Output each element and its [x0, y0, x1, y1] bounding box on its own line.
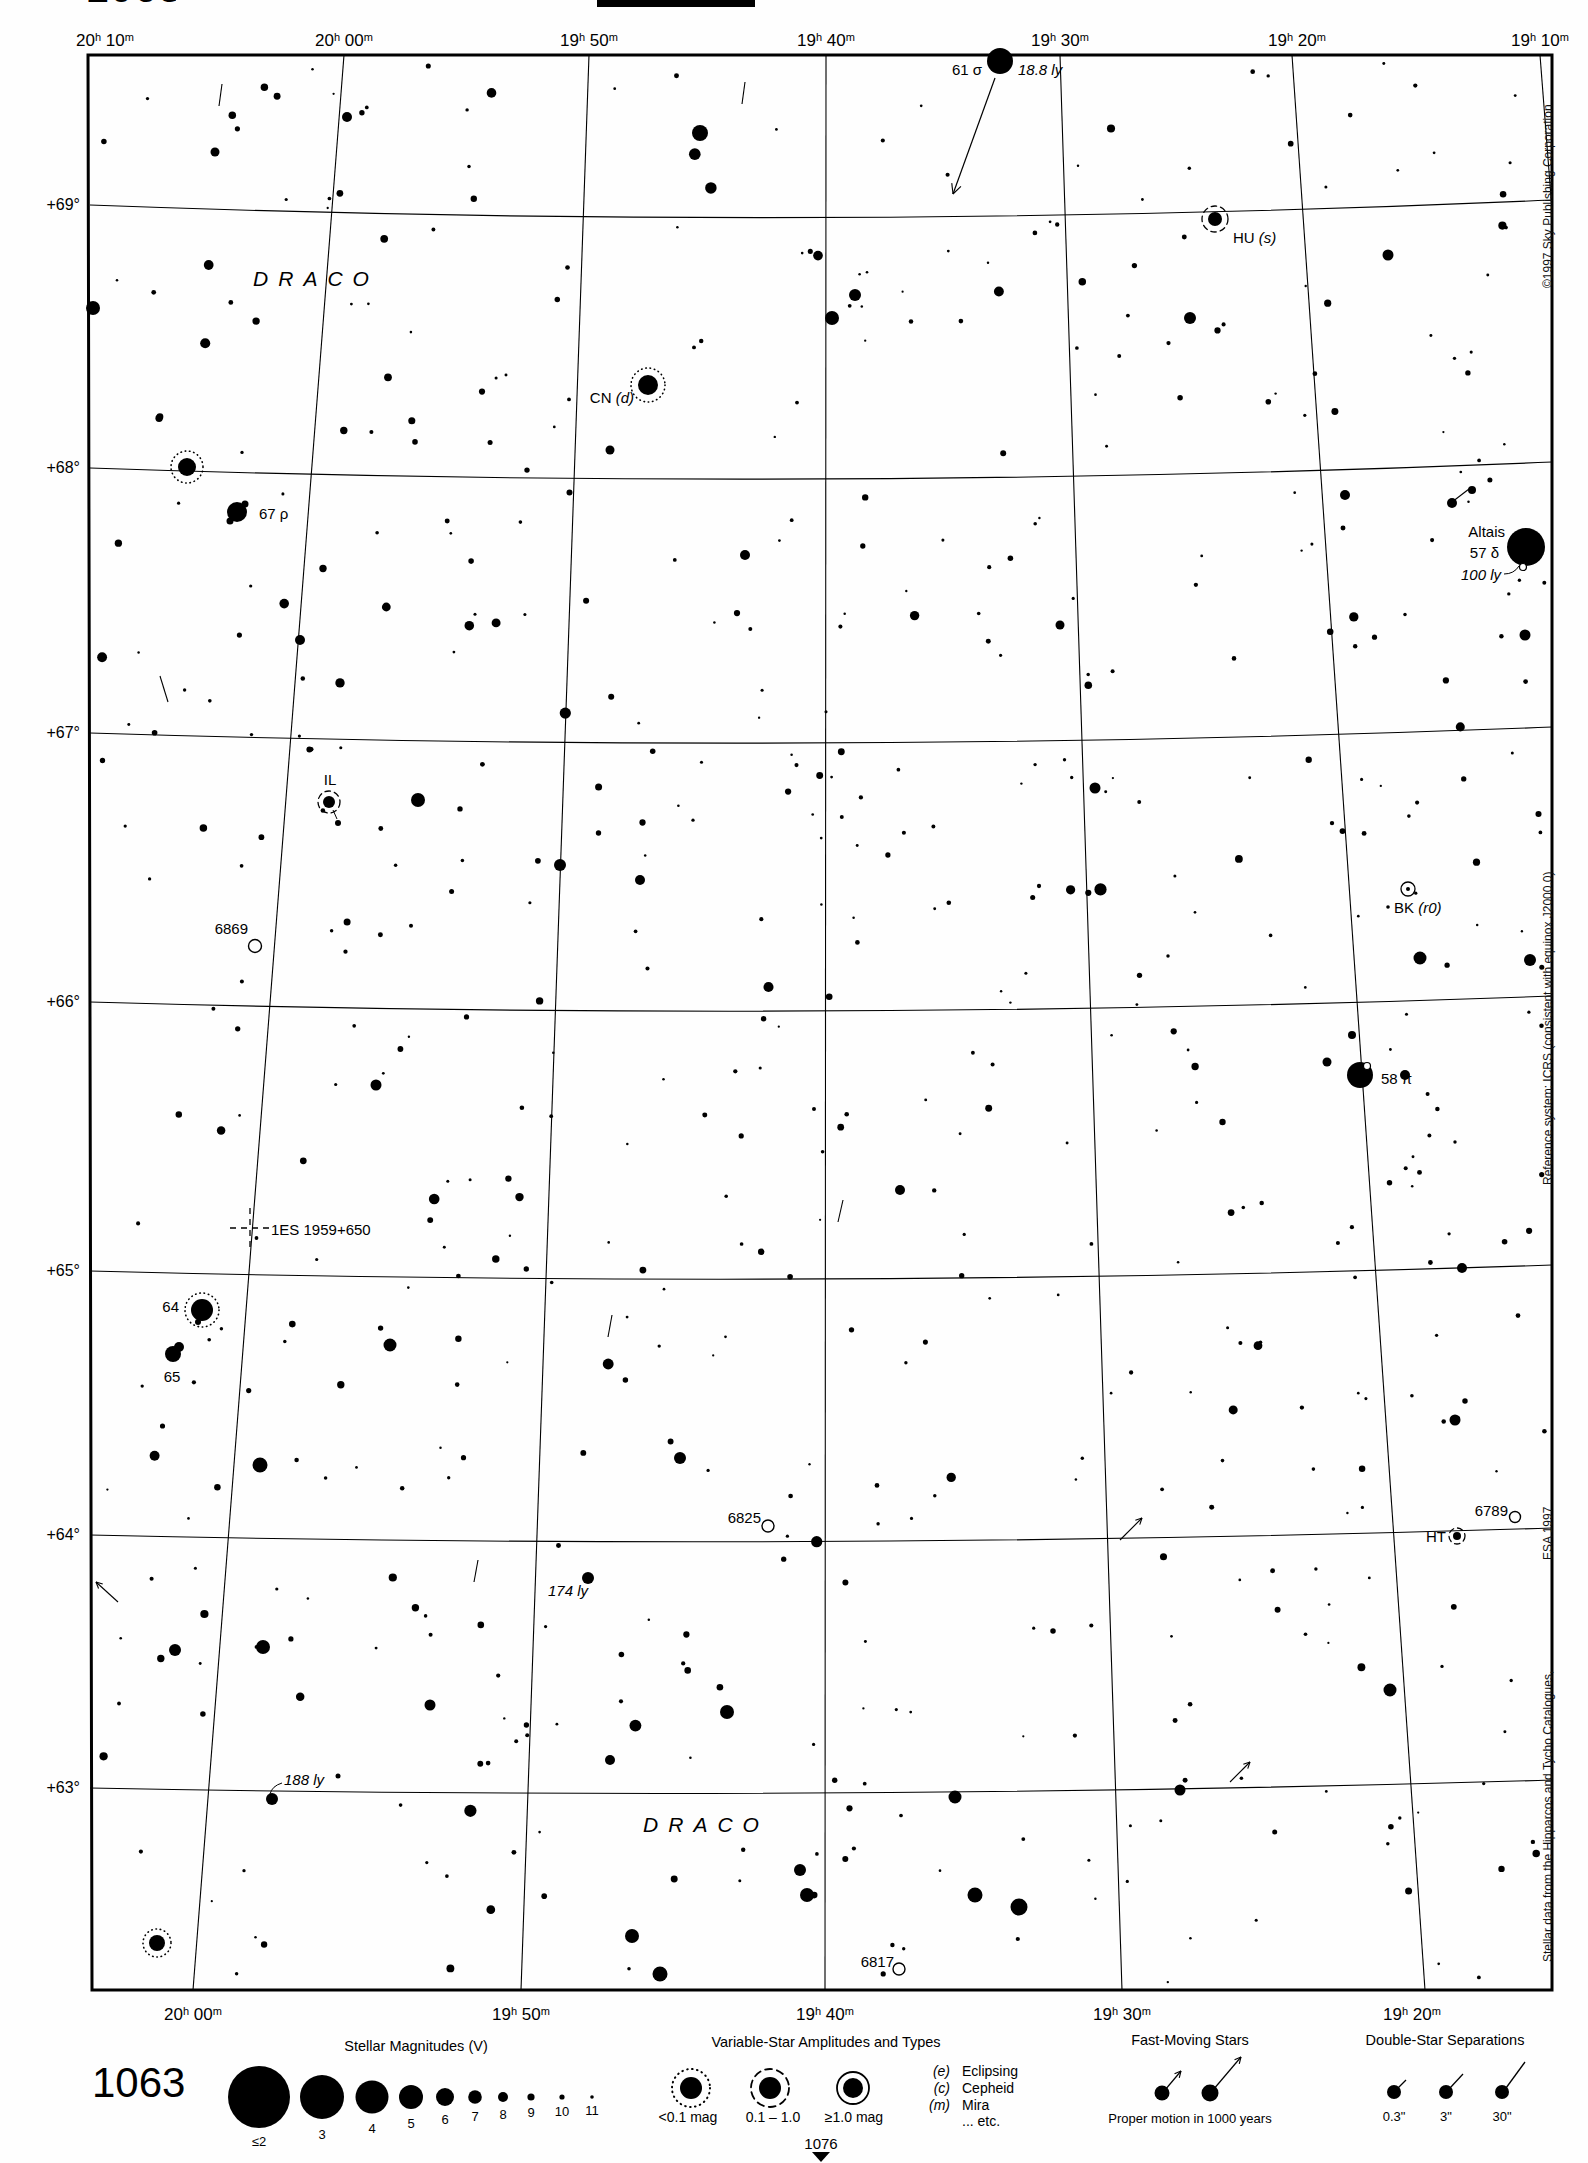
field-star — [525, 1733, 529, 1737]
field-star — [876, 1522, 879, 1525]
field-star — [739, 1133, 744, 1138]
field-star — [1170, 1635, 1173, 1638]
field-star — [337, 1381, 344, 1388]
field-star — [881, 138, 885, 142]
field-star — [445, 1874, 449, 1878]
field-star — [1443, 677, 1449, 683]
magnitude-scale-label-≤2: ≤2 — [252, 2135, 266, 2148]
field-star — [496, 1673, 500, 1677]
field-star — [177, 502, 180, 505]
bright-star — [692, 125, 708, 141]
ra-label-text: 50 — [517, 2005, 541, 2024]
field-star — [214, 1484, 221, 1491]
field-star — [644, 854, 647, 857]
field-star — [300, 1157, 307, 1164]
field-star — [1177, 395, 1183, 401]
field-star — [279, 599, 289, 609]
field-star — [1523, 679, 1528, 684]
field-star — [453, 651, 456, 654]
bright-star — [849, 289, 861, 301]
ngc-6869-label: 6869 — [215, 921, 248, 936]
ht-draconis-symbol — [1453, 1532, 1461, 1540]
field-star — [1226, 1326, 1229, 1329]
field-star — [1016, 1937, 1020, 1941]
field-star — [1437, 1962, 1440, 1965]
field-star — [211, 1007, 215, 1011]
field-star — [261, 1941, 267, 1947]
field-star — [514, 1739, 518, 1743]
star-188-ly-label-text: 188 ly — [284, 1771, 324, 1788]
ngc-6869-label-text: 6869 — [215, 920, 248, 937]
field-star — [1194, 911, 1197, 914]
field-star — [689, 1757, 692, 1760]
bright-star — [411, 793, 425, 807]
bright-star — [371, 1080, 382, 1091]
field-star — [902, 1947, 905, 1950]
field-star — [862, 1707, 864, 1709]
bright-star — [425, 1700, 436, 1711]
il-draconis-symbol — [323, 796, 335, 808]
field-star — [1033, 231, 1038, 236]
field-star — [1521, 930, 1523, 932]
credit-stellar-data: Stellar data from the Hipparcos and Tych… — [1542, 1671, 1556, 1962]
field-star — [658, 1344, 661, 1347]
field-star — [1274, 392, 1276, 394]
field-star — [832, 1778, 837, 1783]
field-star — [461, 859, 465, 863]
field-star — [535, 858, 541, 864]
field-star — [933, 907, 936, 910]
field-star — [864, 340, 866, 342]
field-star — [1000, 990, 1002, 992]
field-star — [1387, 1180, 1392, 1185]
field-star — [553, 426, 556, 429]
field-star — [1350, 1225, 1354, 1229]
bright-star — [606, 446, 615, 455]
field-star — [1435, 1334, 1438, 1337]
field-star — [1498, 1866, 1504, 1872]
field-star — [583, 598, 589, 604]
field-star — [1516, 1313, 1521, 1318]
field-star — [337, 190, 344, 197]
bright-star — [1384, 1684, 1397, 1697]
cn-draconis-symbol — [638, 375, 658, 395]
field-star — [838, 748, 845, 755]
field-star — [486, 1761, 491, 1766]
field-star — [816, 772, 823, 779]
field-star — [556, 1543, 561, 1548]
altais-57-delta-draconis-leader — [1504, 566, 1519, 574]
bright-star — [384, 1339, 397, 1352]
1es-1959+650-label-text: 1ES 1959+650 — [271, 1221, 371, 1238]
field-star — [389, 1573, 397, 1581]
61-sigma-draconis-label-text: 18.8 ly — [1018, 61, 1062, 78]
field-star — [885, 852, 890, 857]
field-star — [332, 93, 334, 95]
magnitude-scale-dot-6 — [436, 2088, 454, 2106]
field-star — [795, 401, 799, 405]
field-star — [830, 776, 833, 779]
field-star — [634, 929, 638, 933]
field-star — [536, 997, 543, 1004]
field-star — [176, 1111, 182, 1117]
field-star — [613, 87, 616, 90]
declination-gridline — [90, 462, 1552, 479]
variable-legend-star — [843, 2078, 863, 2098]
field-star — [648, 1619, 651, 1622]
magnitude-scale-label-3: 3 — [318, 2128, 325, 2141]
il-draconis-label-text: IL — [324, 771, 337, 788]
field-star — [200, 1610, 208, 1618]
ra-label-bottom-19h20m: 19h 20m — [1383, 2006, 1441, 2023]
field-star — [567, 490, 573, 496]
ra-label-bottom-20h00m: 20h 00m — [164, 2006, 222, 2023]
field-star — [1327, 628, 1334, 635]
61-sigma-draconis-arrowhead — [952, 183, 953, 194]
field-star — [858, 273, 861, 276]
field-star — [478, 1622, 485, 1629]
field-star — [781, 1557, 786, 1562]
dec-label-64: +64° — [46, 1527, 80, 1543]
field-star — [1110, 1034, 1113, 1037]
field-star — [1219, 1119, 1225, 1125]
field-star — [115, 540, 122, 547]
field-star — [1407, 814, 1411, 818]
bright-star — [800, 1888, 814, 1902]
field-star — [856, 844, 859, 847]
